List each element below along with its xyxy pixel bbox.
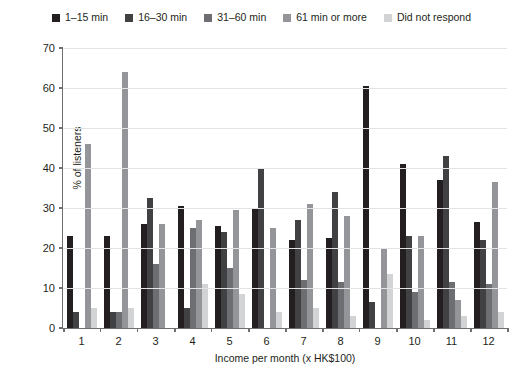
x-tick-mark bbox=[137, 328, 139, 332]
legend-label: 31–60 min bbox=[217, 12, 266, 23]
y-tick-mark bbox=[59, 287, 63, 289]
y-tick-label: 30 bbox=[15, 203, 55, 214]
bar[interactable] bbox=[492, 182, 498, 328]
legend-label: 61 min or more bbox=[296, 12, 367, 23]
x-tick-mark bbox=[100, 328, 102, 332]
bar[interactable] bbox=[344, 216, 350, 328]
y-tick-label: 50 bbox=[15, 123, 55, 134]
y-tick-label: 60 bbox=[15, 83, 55, 94]
legend-swatch-icon bbox=[204, 14, 212, 22]
legend-item[interactable]: 16–30 min bbox=[125, 12, 187, 23]
x-tick-label: 5 bbox=[211, 328, 248, 350]
legend-swatch-icon bbox=[125, 14, 133, 22]
x-tick-label: 7 bbox=[285, 328, 322, 350]
bar-group bbox=[174, 48, 211, 328]
x-tick-label: 4 bbox=[174, 328, 211, 350]
legend-label: Did not respond bbox=[397, 12, 471, 23]
bar[interactable] bbox=[418, 236, 424, 328]
legend-item[interactable]: 61 min or more bbox=[283, 12, 367, 23]
bar-group bbox=[396, 48, 433, 328]
gridline bbox=[63, 128, 507, 129]
y-tick-mark bbox=[59, 327, 63, 329]
bar[interactable] bbox=[91, 308, 97, 328]
bar[interactable] bbox=[239, 294, 245, 328]
bar-group bbox=[359, 48, 396, 328]
x-tick-label: 12 bbox=[470, 328, 507, 350]
bar[interactable] bbox=[387, 274, 393, 328]
x-tick-label: 10 bbox=[396, 328, 433, 350]
bar[interactable] bbox=[363, 86, 369, 328]
bar[interactable] bbox=[128, 308, 134, 328]
legend-item[interactable]: Did not respond bbox=[384, 12, 471, 23]
x-tick-label: 1 bbox=[63, 328, 100, 350]
x-tick-mark bbox=[285, 328, 287, 332]
x-tick-mark bbox=[470, 328, 472, 332]
y-tick-mark bbox=[59, 247, 63, 249]
bar[interactable] bbox=[73, 312, 79, 328]
x-tick-mark bbox=[507, 328, 509, 332]
x-tick-mark bbox=[211, 328, 213, 332]
x-tick-label: 9 bbox=[359, 328, 396, 350]
bar-group bbox=[63, 48, 100, 328]
gridline bbox=[63, 248, 507, 249]
bar-chart: 1–15 min16–30 min31–60 min61 min or more… bbox=[0, 0, 523, 380]
x-tick-label: 8 bbox=[322, 328, 359, 350]
y-tick-label: 40 bbox=[15, 163, 55, 174]
y-tick-mark bbox=[59, 167, 63, 169]
chart-legend: 1–15 min16–30 min31–60 min61 min or more… bbox=[0, 12, 523, 23]
legend-label: 1–15 min bbox=[65, 12, 108, 23]
x-tick-mark bbox=[396, 328, 398, 332]
y-tick-mark bbox=[59, 127, 63, 129]
x-tick-label: 11 bbox=[433, 328, 470, 350]
bar[interactable] bbox=[424, 320, 430, 328]
x-tick-mark bbox=[248, 328, 250, 332]
legend-item[interactable]: 1–15 min bbox=[52, 12, 108, 23]
x-axis-ticks: 123456789101112 bbox=[63, 328, 507, 350]
y-tick-label: 0 bbox=[15, 323, 55, 334]
y-tick-mark bbox=[59, 207, 63, 209]
y-tick-label: 10 bbox=[15, 283, 55, 294]
y-tick-label: 20 bbox=[15, 243, 55, 254]
legend-swatch-icon bbox=[283, 14, 291, 22]
gridline bbox=[63, 48, 507, 49]
bar-group bbox=[470, 48, 507, 328]
gridline bbox=[63, 88, 507, 89]
bar-group bbox=[248, 48, 285, 328]
gridline bbox=[63, 288, 507, 289]
legend-swatch-icon bbox=[52, 14, 60, 22]
x-tick-mark bbox=[359, 328, 361, 332]
bar[interactable] bbox=[498, 312, 504, 328]
gridline bbox=[63, 208, 507, 209]
bar-group bbox=[211, 48, 248, 328]
x-tick-label: 3 bbox=[137, 328, 174, 350]
y-tick-mark bbox=[59, 47, 63, 49]
x-tick-mark bbox=[433, 328, 435, 332]
bar[interactable] bbox=[202, 284, 208, 328]
y-tick-label: 70 bbox=[15, 43, 55, 54]
x-axis-title: Income per month (x HK$100) bbox=[63, 352, 507, 364]
bar[interactable] bbox=[350, 316, 356, 328]
bar[interactable] bbox=[85, 144, 91, 328]
bar-group bbox=[285, 48, 322, 328]
x-tick-label: 2 bbox=[100, 328, 137, 350]
legend-label: 16–30 min bbox=[138, 12, 187, 23]
y-tick-mark bbox=[59, 87, 63, 89]
x-tick-mark bbox=[322, 328, 324, 332]
bar[interactable] bbox=[369, 302, 375, 328]
legend-swatch-icon bbox=[384, 14, 392, 22]
bar[interactable] bbox=[276, 312, 282, 328]
bar[interactable] bbox=[461, 316, 467, 328]
bar[interactable] bbox=[122, 72, 128, 328]
bar[interactable] bbox=[313, 308, 319, 328]
bar-group bbox=[137, 48, 174, 328]
plot-area: % of listeners 123456789101112 Income pe… bbox=[62, 48, 507, 329]
bar-group bbox=[322, 48, 359, 328]
bar-group bbox=[100, 48, 137, 328]
legend-item[interactable]: 31–60 min bbox=[204, 12, 266, 23]
bar-groups bbox=[63, 48, 507, 328]
x-tick-label: 6 bbox=[248, 328, 285, 350]
bar[interactable] bbox=[159, 224, 165, 328]
bar-group bbox=[433, 48, 470, 328]
x-tick-mark bbox=[63, 328, 65, 332]
gridline bbox=[63, 168, 507, 169]
